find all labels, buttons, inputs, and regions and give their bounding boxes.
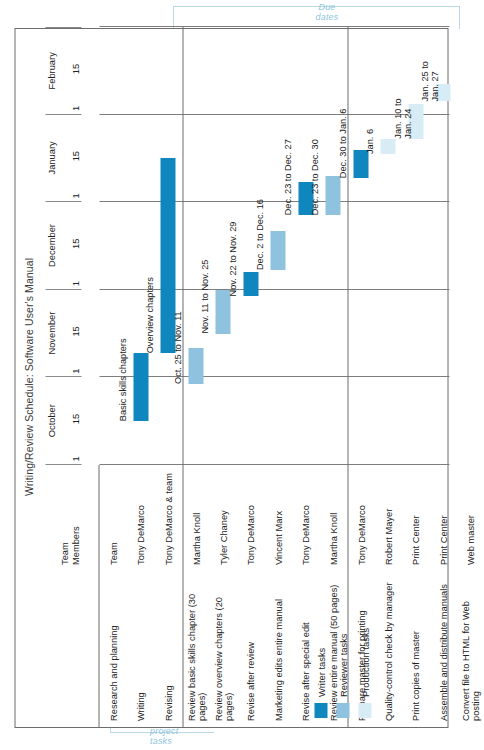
task-name: Revise after review <box>237 571 265 721</box>
axis-tick-1: 1 <box>70 106 80 111</box>
table-row[interactable]: RevisingTony DeMarco & team <box>154 465 182 727</box>
month-gridline <box>99 376 449 377</box>
team-member-name: Tony DeMarco & team <box>154 469 182 565</box>
task-name: Print copies of master <box>402 571 430 721</box>
chart-frame: Writing/Review Schedule: Software User's… <box>14 28 448 728</box>
gantt-bar[interactable] <box>188 348 203 384</box>
axis-tick-15: 15 <box>70 151 80 161</box>
axis-tick-15: 15 <box>70 239 80 249</box>
gantt-bar[interactable] <box>325 176 340 215</box>
column-headers: Team Members <box>41 465 99 727</box>
group-separator <box>182 27 183 465</box>
table-row[interactable]: Prepare master for printingTony DeMarco <box>347 465 375 727</box>
tick-row: 115 <box>68 28 80 114</box>
plot-area: October115November115December115January1… <box>41 27 449 465</box>
task-name: Assemble and distribute manuals <box>429 571 457 721</box>
axis-tick-15: 15 <box>70 326 80 336</box>
month-label: February <box>46 28 56 114</box>
axis-tick-1: 1 <box>70 193 80 198</box>
table-row[interactable]: Assemble and distribute manualsPrint Cen… <box>429 465 457 727</box>
team-member-name: Martha Knoll <box>183 469 210 565</box>
bar-date-label: Overview chapters <box>144 277 154 353</box>
table-row[interactable]: Review overview chapters (20 pages)Tyler… <box>209 465 237 727</box>
team-member-name: Print Center <box>429 469 457 565</box>
team-member-name: Martha Knoll <box>319 469 347 565</box>
task-name: Marketing edits entire manual <box>264 571 292 721</box>
table-row[interactable]: Convert file to HTML for Web postingWeb … <box>457 465 484 727</box>
team-members-header: Team Members <box>41 469 98 565</box>
gantt-bar[interactable] <box>215 290 230 334</box>
month-gridline <box>99 464 449 465</box>
bar-date-label: Jan. 10 to Jan. 24 <box>392 98 412 138</box>
tick-row: 115 <box>68 115 80 202</box>
tick-row: 115 <box>68 377 80 464</box>
month-column-october: October115 <box>45 377 81 465</box>
month-label: October <box>46 377 56 464</box>
table-row[interactable]: Revise after reviewTony DeMarco <box>237 465 265 727</box>
bar-date-label: Jan. 6 <box>364 129 374 154</box>
table-row[interactable]: Print copies of masterPrint Center <box>402 465 430 727</box>
month-column-november: November115 <box>45 290 81 378</box>
bar-date-label: Oct. 25 to Nov. 11 <box>172 311 182 384</box>
row-header-column: Team Members Research and planningTeamWr… <box>41 465 449 727</box>
month-column-december: December115 <box>45 202 81 290</box>
axis-tick-1: 1 <box>70 369 80 374</box>
task-name: Review basic skills chapter (30 pages) <box>183 571 210 721</box>
team-member-name: Web master <box>457 469 484 565</box>
month-gridline <box>99 26 449 27</box>
bar-date-label: Dec. 23 to Dec. 30 <box>309 139 319 215</box>
bar-date-label: Nov. 11 to Nov. 25 <box>199 260 209 334</box>
axis-tick-15: 15 <box>70 414 80 424</box>
axis-tick-1: 1 <box>70 281 80 286</box>
team-member-name: Tony DeMarco <box>127 469 155 565</box>
table-row[interactable]: Review entire manual (50 pages)Martha Kn… <box>319 465 347 727</box>
team-member-name: Print Center <box>402 469 430 565</box>
month-gridline <box>99 201 449 202</box>
bar-date-label: Dec. 30 to Jan. 6 <box>337 109 347 178</box>
gantt-bar[interactable] <box>133 353 148 421</box>
team-member-name: Tyler Chaney <box>209 469 237 565</box>
gantt-bar[interactable] <box>270 231 285 270</box>
table-row[interactable]: WritingTony DeMarco <box>127 465 155 727</box>
month-label: November <box>46 290 56 377</box>
axis-tick-15: 15 <box>70 64 80 74</box>
team-member-name: Robert Mayer <box>374 469 402 565</box>
team-member-name: Team <box>99 469 127 565</box>
page-title: Writing/Review Schedule: Software User's… <box>15 27 41 727</box>
table-row[interactable]: Review basic skills chapter (30 pages)Ma… <box>182 465 210 727</box>
group-separator <box>347 27 348 465</box>
month-scale: October115November115December115January1… <box>41 27 99 465</box>
team-member-name: Tony DeMarco <box>348 469 375 565</box>
task-name: Revise after special edit <box>292 571 320 721</box>
team-member-name: Vincent Marx <box>264 469 292 565</box>
month-column-february: February115 <box>45 27 81 115</box>
bar-date-label: Nov. 22 to Nov. 29 <box>227 222 237 297</box>
team-member-name: Tony DeMarco <box>237 469 265 565</box>
month-label: January <box>46 115 56 202</box>
tick-row: 115 <box>68 290 80 377</box>
bar-date-label: Basic skills chapters <box>117 338 127 421</box>
bar-date-label: Dec. 23 to Dec. 27 <box>282 139 292 215</box>
task-name: Quality-control check by manager <box>374 571 402 721</box>
gantt-bar[interactable] <box>380 139 395 154</box>
team-members-header-label2: Members <box>70 526 81 565</box>
tick-row: 115 <box>68 202 80 289</box>
task-column-header <box>41 571 98 721</box>
bar-date-label: Dec. 2 to Dec. 16 <box>254 199 264 270</box>
month-column-january: January115 <box>45 115 81 203</box>
gantt-bar[interactable] <box>243 272 258 296</box>
task-name: Writing <box>127 571 155 721</box>
axis-tick-1: 1 <box>70 456 80 461</box>
task-name: Revising <box>154 571 182 721</box>
task-name: Prepare master for printing <box>348 571 375 721</box>
bar-date-label: Jan. 25 to Jan. 27 <box>419 61 439 101</box>
table-row[interactable]: Research and planningTeam <box>99 465 127 727</box>
table-row[interactable]: Quality-control check by managerRobert M… <box>374 465 402 727</box>
task-name: Review entire manual (50 pages) <box>319 571 347 721</box>
table-row[interactable]: Revise after special editTony DeMarco <box>292 465 320 727</box>
team-members-header-label: Team <box>59 542 70 565</box>
table-row[interactable]: Marketing edits entire manualVincent Mar… <box>264 465 292 727</box>
task-name: Review overview chapters (20 pages) <box>209 571 237 721</box>
task-name: Research and planning <box>99 571 127 721</box>
